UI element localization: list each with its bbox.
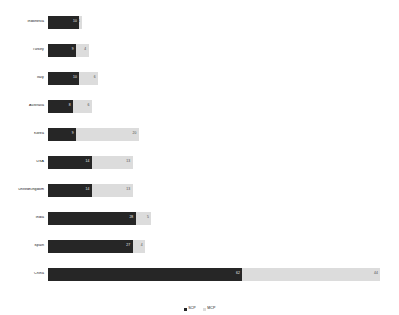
legend-swatch-scp: [184, 308, 187, 311]
bar-chart: Indonesia101Turkey94Italy106Australia86K…: [0, 0, 399, 315]
legend-item-mcp: MCP: [203, 307, 216, 311]
bar-track: 285: [48, 212, 399, 225]
category-label: USA: [0, 160, 48, 164]
bar-segment-mcp: 6: [73, 100, 92, 113]
bar-row: UnitedKingdom1413: [0, 176, 399, 204]
chart-legend: SCP MCP: [0, 307, 399, 311]
bar-segment-scp: 28: [48, 212, 136, 225]
bar-row: Turkey94: [0, 36, 399, 64]
category-label: Indonesia: [0, 20, 48, 24]
bar-value-mcp: 4: [84, 48, 88, 51]
bar-segment-scp: 14: [48, 156, 92, 169]
category-label: Korea: [0, 132, 48, 136]
bar-row: China6244: [0, 260, 399, 288]
bar-segment-scp: 10: [48, 16, 79, 29]
bar-value-mcp: 20: [133, 132, 139, 135]
bar-row: Australia86: [0, 92, 399, 120]
category-label: Italy: [0, 76, 48, 80]
category-label: Australia: [0, 104, 48, 108]
bar-segment-mcp: 1: [79, 16, 82, 29]
bar-segment-scp: 9: [48, 128, 76, 141]
legend-label-scp: SCP: [188, 307, 196, 311]
bar-track: 94: [48, 44, 399, 57]
bar-segment-mcp: 13: [92, 156, 133, 169]
bar-value-mcp: 6: [94, 76, 98, 79]
plot-area: Indonesia101Turkey94Italy106Australia86K…: [0, 8, 399, 288]
category-label: Spain: [0, 244, 48, 248]
bar-row: Italy106: [0, 64, 399, 92]
category-label: UnitedKingdom: [0, 188, 48, 192]
bar-value-mcp: 13: [126, 160, 132, 163]
bar-track: 86: [48, 100, 399, 113]
bar-value-mcp: 5: [147, 216, 151, 219]
bar-row: USA1413: [0, 148, 399, 176]
bar-segment-scp: 10: [48, 72, 79, 85]
legend-label-mcp: MCP: [207, 307, 215, 311]
bar-value-mcp: 1: [79, 20, 82, 23]
bar-row: Spain274: [0, 232, 399, 260]
bar-row: Indonesia101: [0, 8, 399, 36]
bar-segment-scp: 9: [48, 44, 76, 57]
bar-segment-mcp: 44: [242, 268, 380, 281]
bar-track: 920: [48, 128, 399, 141]
bar-segment-mcp: 20: [76, 128, 139, 141]
bar-track: 101: [48, 16, 399, 29]
legend-swatch-mcp: [203, 308, 206, 311]
bar-track: 1413: [48, 156, 399, 169]
category-label: India: [0, 216, 48, 220]
bar-value-mcp: 4: [141, 244, 145, 247]
bar-segment-mcp: 4: [133, 240, 146, 253]
bar-track: 6244: [48, 268, 399, 281]
bar-segment-scp: 27: [48, 240, 133, 253]
bar-segment-mcp: 13: [92, 184, 133, 197]
category-label: China: [0, 272, 48, 276]
bar-segment-scp: 8: [48, 100, 73, 113]
category-label: Turkey: [0, 48, 48, 52]
bar-row: Korea920: [0, 120, 399, 148]
bar-row: India285: [0, 204, 399, 232]
bar-segment-mcp: 5: [136, 212, 152, 225]
bar-track: 106: [48, 72, 399, 85]
bar-segment-scp: 62: [48, 268, 242, 281]
bar-track: 274: [48, 240, 399, 253]
bar-track: 1413: [48, 184, 399, 197]
bar-segment-mcp: 6: [79, 72, 98, 85]
bar-value-mcp: 6: [87, 104, 91, 107]
bar-value-mcp: 13: [126, 188, 132, 191]
bar-segment-mcp: 4: [76, 44, 89, 57]
bar-segment-scp: 14: [48, 184, 92, 197]
legend-item-scp: SCP: [184, 307, 196, 311]
bar-value-mcp: 44: [374, 272, 380, 275]
